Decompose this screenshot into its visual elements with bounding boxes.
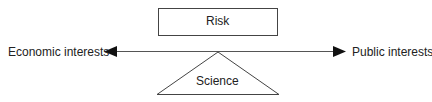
economic-interests-label: Economic interests	[8, 45, 109, 59]
public-interests-label: Public interests	[352, 45, 432, 59]
balance-diagram: Risk Science Economic interests Public i…	[0, 0, 432, 102]
risk-label: Risk	[206, 14, 229, 28]
right-arrowhead-icon	[333, 46, 346, 57]
science-label: Science	[196, 74, 239, 88]
